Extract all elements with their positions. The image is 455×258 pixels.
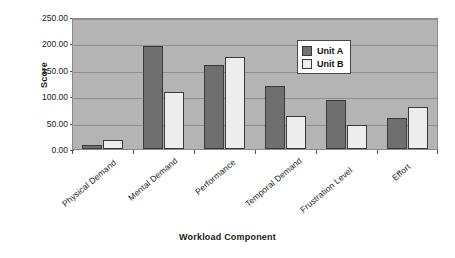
y-axis-tick-label: 50.00 [24,119,68,128]
y-axis-tick-label: 150.00 [24,67,68,76]
x-axis-category-label: Performance [193,157,238,197]
x-axis-tick-mark [72,150,73,154]
y-axis-tick-label: 250.00 [24,14,68,23]
x-axis-category-label: Physical Demand [60,158,118,209]
legend-item-unit-a: Unit A [302,44,344,57]
bar-unit-a [387,118,407,149]
x-axis-title: Workload Component [0,232,455,242]
plot-area [72,18,438,150]
bar-unit-a [204,65,224,149]
bar-group [73,19,134,149]
x-axis-tick-mark [437,150,438,154]
bar-unit-a [82,145,102,149]
x-axis-tick-mark [377,150,378,154]
bar-group [317,19,378,149]
x-axis-tick-mark [316,150,317,154]
x-axis-tick-mark [194,150,195,154]
x-axis-category-label: Frustration Level [298,165,354,214]
legend: Unit A Unit B [297,40,351,74]
bar-unit-a [143,46,163,149]
bar-unit-a [326,100,346,149]
y-axis-tick-label: 200.00 [24,40,68,49]
x-axis-category-labels: Physical DemandMental DemandPerformanceT… [0,155,455,223]
bars-layer [73,19,437,149]
y-axis-ticks: 0.0050.00100.00150.00200.00250.00 [24,18,68,150]
x-axis-tick-mark [255,150,256,154]
bar-group [134,19,195,149]
x-axis-category-label: Temporal Demand [243,156,304,209]
legend-swatch-icon-unit-a [302,46,312,56]
bar-group [256,19,317,149]
legend-item-unit-b: Unit B [302,57,344,70]
bar-unit-b [286,116,306,149]
y-axis-tick-label: 0.00 [24,146,68,155]
x-axis-tick-mark [133,150,134,154]
legend-swatch-icon-unit-b [302,59,312,69]
bar-unit-b [347,125,367,149]
bar-unit-b [225,57,245,149]
legend-label-unit-a: Unit A [317,46,343,56]
bar-unit-b [164,92,184,149]
bar-unit-b [408,107,428,149]
bar-chart: Score 0.0050.00100.00150.00200.00250.00 … [0,0,455,258]
bar-group [195,19,256,149]
bar-group [378,19,439,149]
x-axis-category-label: Effort [390,161,412,182]
y-axis-tick-label: 100.00 [24,93,68,102]
bar-unit-b [103,140,123,149]
bar-unit-a [265,86,285,149]
legend-label-unit-b: Unit B [317,59,344,69]
x-axis-category-label: Mental Demand [126,156,179,203]
